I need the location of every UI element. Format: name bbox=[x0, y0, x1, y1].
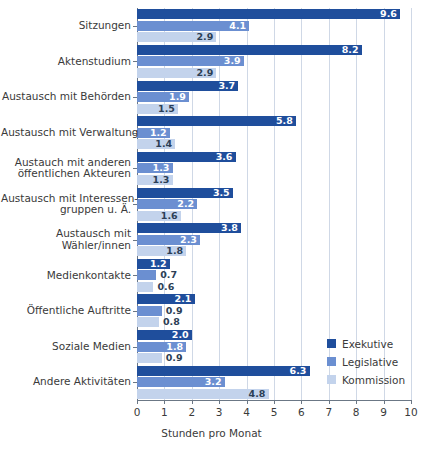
category-label: Medienkontakte bbox=[1, 270, 131, 282]
bar-value-label: 2.1 bbox=[175, 293, 192, 304]
category-tick-mark bbox=[133, 61, 137, 62]
bar-row: 3.9 bbox=[137, 56, 411, 66]
bar-value-label: 1.3 bbox=[153, 174, 170, 185]
bar-value-label: 8.2 bbox=[342, 44, 359, 55]
legend-item-legislative[interactable]: Legislative bbox=[327, 354, 405, 369]
bar[interactable] bbox=[137, 45, 362, 55]
category-label: Soziale Medien bbox=[1, 341, 131, 353]
x-tick-mark bbox=[219, 400, 220, 404]
x-tick-mark bbox=[384, 400, 385, 404]
gridline bbox=[411, 8, 412, 400]
bar-value-label: 1.3 bbox=[153, 162, 170, 173]
bar-value-label: 3.2 bbox=[205, 376, 222, 387]
category-label-line: Soziale Medien bbox=[1, 341, 131, 353]
category-tick-mark bbox=[133, 26, 137, 27]
category-label: Öffentliche Auftritte bbox=[1, 305, 131, 317]
legend-label: Legislative bbox=[342, 356, 398, 368]
x-tick-label: 3 bbox=[216, 406, 223, 418]
category-tick-mark bbox=[133, 382, 137, 383]
bar-chart: 9.64.12.98.23.92.93.71.91.55.81.21.43.61… bbox=[0, 0, 423, 450]
bar-row: 1.9 bbox=[137, 92, 411, 102]
x-tick-label: 6 bbox=[298, 406, 305, 418]
bar-value-label: 9.6 bbox=[380, 8, 397, 19]
bar-value-label: 0.9 bbox=[166, 352, 183, 363]
category-label-line: Austausch mit Behörden bbox=[1, 91, 131, 103]
bar-value-label: 0.7 bbox=[160, 269, 177, 280]
bar-value-label: 1.9 bbox=[169, 91, 186, 102]
category-label-line: Austausch mit Verwaltung bbox=[1, 127, 131, 139]
bar-row: 0.8 bbox=[137, 317, 411, 327]
bar[interactable] bbox=[137, 353, 162, 363]
bar[interactable] bbox=[137, 366, 310, 376]
category-label-line: Medienkontakte bbox=[1, 270, 131, 282]
bar-row: 1.8 bbox=[137, 246, 411, 256]
x-tick-label: 0 bbox=[134, 406, 141, 418]
bar[interactable] bbox=[137, 270, 156, 280]
bar-row: 0.6 bbox=[137, 282, 411, 292]
legend-item-kommission[interactable]: Kommission bbox=[327, 372, 405, 387]
bar[interactable] bbox=[137, 282, 153, 292]
category-label-line: gruppen u. Ä. bbox=[1, 204, 131, 216]
bar-row: 4.1 bbox=[137, 21, 411, 31]
bar-value-label: 1.8 bbox=[166, 245, 183, 256]
bar-value-label: 0.6 bbox=[157, 281, 174, 292]
bar-value-label: 1.2 bbox=[150, 258, 167, 269]
category-label: Austausch mitWähler/innen bbox=[1, 228, 131, 251]
bar-value-label: 0.8 bbox=[163, 316, 180, 327]
bar[interactable] bbox=[137, 306, 162, 316]
x-tick-label: 1 bbox=[161, 406, 168, 418]
bar[interactable] bbox=[137, 9, 400, 19]
bar-row: 3.7 bbox=[137, 81, 411, 91]
x-tick-mark bbox=[329, 400, 330, 404]
bar-row: 2.1 bbox=[137, 294, 411, 304]
bar-value-label: 6.3 bbox=[290, 365, 307, 376]
category-label: Austausch mit Behörden bbox=[1, 91, 131, 103]
legend-swatch-icon bbox=[327, 375, 336, 384]
bar-value-label: 1.2 bbox=[150, 127, 167, 138]
legend-label: Exekutive bbox=[342, 338, 393, 350]
bar-row: 2.9 bbox=[137, 68, 411, 78]
bar-row: 0.9 bbox=[137, 306, 411, 316]
x-tick-mark bbox=[164, 400, 165, 404]
x-tick-label: 4 bbox=[243, 406, 250, 418]
category-label: Austausch mit Verwaltung bbox=[1, 127, 131, 139]
bar-row: 1.3 bbox=[137, 175, 411, 185]
bar-row: 3.5 bbox=[137, 188, 411, 198]
x-tick-mark bbox=[247, 400, 248, 404]
x-tick-mark bbox=[301, 400, 302, 404]
bar[interactable] bbox=[137, 116, 296, 126]
bar[interactable] bbox=[137, 317, 159, 327]
legend-item-exekutive[interactable]: Exekutive bbox=[327, 336, 405, 351]
bar-value-label: 2.2 bbox=[177, 198, 194, 209]
bar-value-label: 2.0 bbox=[172, 329, 189, 340]
bar-value-label: 2.9 bbox=[196, 67, 213, 78]
x-tick-label: 9 bbox=[380, 406, 387, 418]
bar-row: 1.2 bbox=[137, 259, 411, 269]
bar-value-label: 4.8 bbox=[249, 388, 266, 399]
bar-value-label: 1.4 bbox=[155, 138, 172, 149]
legend-swatch-icon bbox=[327, 357, 336, 366]
category-label: Austausch mit Interessen-gruppen u. Ä. bbox=[1, 193, 131, 216]
x-tick-mark bbox=[411, 400, 412, 404]
category-tick-mark bbox=[133, 240, 137, 241]
x-tick-label: 10 bbox=[404, 406, 417, 418]
bar-value-label: 1.8 bbox=[166, 341, 183, 352]
x-tick-label: 8 bbox=[353, 406, 360, 418]
bar-value-label: 2.3 bbox=[180, 234, 197, 245]
category-tick-mark bbox=[133, 311, 137, 312]
bar-value-label: 3.7 bbox=[218, 80, 235, 91]
bar-row: 4.8 bbox=[137, 389, 411, 399]
bar-value-label: 1.6 bbox=[161, 210, 178, 221]
x-tick-mark bbox=[192, 400, 193, 404]
bar-value-label: 4.1 bbox=[229, 20, 246, 31]
x-tick-label: 7 bbox=[325, 406, 332, 418]
category-tick-mark bbox=[133, 168, 137, 169]
x-tick-mark bbox=[137, 400, 138, 404]
category-label-line: Austausch mit bbox=[1, 228, 131, 240]
bar-value-label: 5.8 bbox=[276, 115, 293, 126]
bar-value-label: 3.9 bbox=[224, 55, 241, 66]
category-tick-mark bbox=[133, 347, 137, 348]
category-tick-mark bbox=[133, 204, 137, 205]
bar-value-label: 0.9 bbox=[166, 305, 183, 316]
bar-row: 2.2 bbox=[137, 199, 411, 209]
